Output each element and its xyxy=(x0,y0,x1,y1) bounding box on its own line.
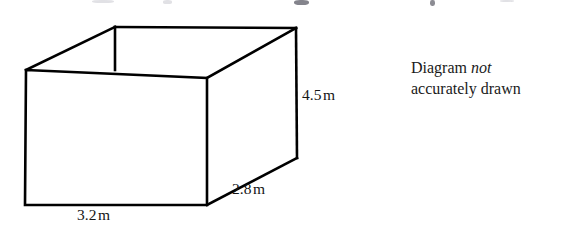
depth-unit: m xyxy=(253,180,265,197)
note-line-2: accurately drawn xyxy=(411,78,521,99)
edge-top-rear xyxy=(115,27,296,28)
depth-value: 2.8 xyxy=(232,180,251,197)
note-line-1: Diagram not xyxy=(411,57,521,78)
edge-top-right-receding xyxy=(207,28,296,78)
edge-front-face xyxy=(25,70,207,205)
edge-right-vertical xyxy=(296,28,297,158)
depth-dimension-label: 2.8m xyxy=(232,181,265,197)
height-unit: m xyxy=(323,86,335,103)
note-emphasis: not xyxy=(471,59,491,76)
height-dimension-label: 4.5m xyxy=(302,87,335,103)
width-value: 3.2 xyxy=(77,206,96,223)
width-dimension-label: 3.2m xyxy=(77,207,110,223)
diagram-page: 4.5m 2.8m 3.2m Diagram not accurately dr… xyxy=(0,0,577,245)
note-prefix: Diagram xyxy=(411,59,471,76)
not-to-scale-note: Diagram not accurately drawn xyxy=(411,57,521,99)
edge-top-left-receding xyxy=(26,27,115,70)
height-value: 4.5 xyxy=(302,86,321,103)
width-unit: m xyxy=(98,206,110,223)
